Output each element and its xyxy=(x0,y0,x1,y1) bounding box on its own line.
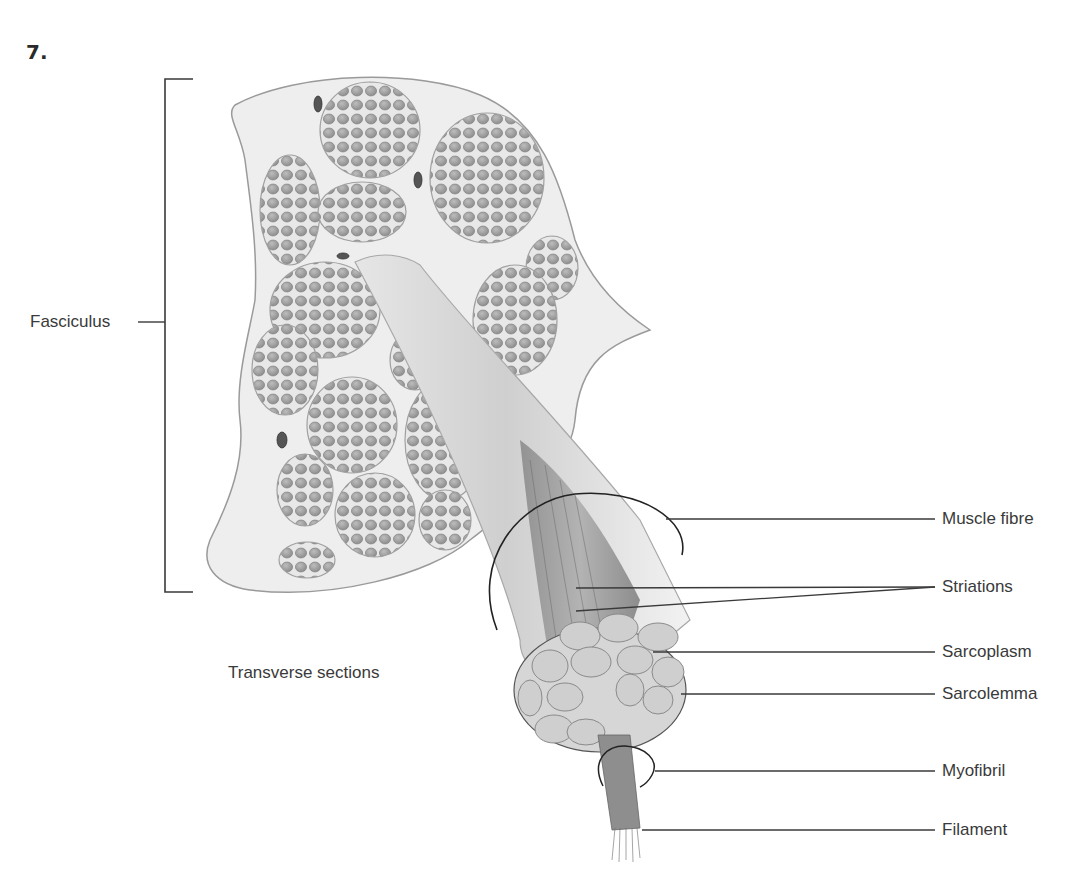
label-striations: Striations xyxy=(942,577,1013,597)
label-transverse-sections: Transverse sections xyxy=(228,663,379,683)
fasciculus-bracket xyxy=(138,79,193,592)
label-filament: Filament xyxy=(942,820,1007,840)
label-fasciculus: Fasciculus xyxy=(30,312,110,332)
label-sarcolemma: Sarcolemma xyxy=(942,684,1037,704)
muscle-diagram xyxy=(0,0,1083,884)
label-myofibril: Myofibril xyxy=(942,761,1005,781)
label-sarcoplasm: Sarcoplasm xyxy=(942,642,1032,662)
label-muscle-fibre: Muscle fibre xyxy=(942,509,1034,529)
